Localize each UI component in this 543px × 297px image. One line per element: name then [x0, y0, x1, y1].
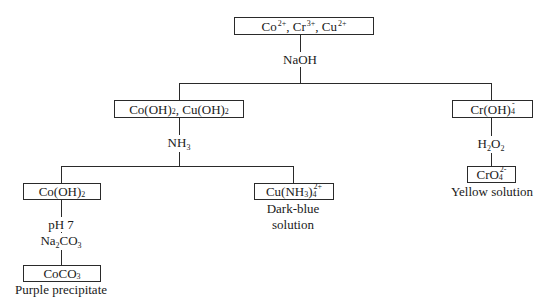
connector-to-copper-ammine [293, 166, 294, 183]
h: H [478, 136, 487, 151]
node-chromite: Cr(OH)4- [452, 100, 533, 118]
node-cobalt-carbonate: CoCO3 [23, 265, 101, 282]
subscript: 2 [81, 191, 85, 199]
ion-cu: , Cu2+ [315, 20, 346, 33]
formula-cu-nh: Cu(NH [266, 185, 304, 198]
na: Na [40, 233, 55, 248]
o: O [491, 136, 500, 151]
charge: - [512, 100, 515, 108]
reagent-naoh: NaOH [281, 52, 319, 67]
node-root-ions: Co2+ , Cr3+ , Cu2+ [234, 17, 374, 35]
connector-nh3-split [61, 166, 294, 167]
formula-cr-oh: Cr(OH) [470, 103, 510, 116]
charge: 2- [500, 166, 507, 174]
formula-co-oh: Co(OH) [129, 103, 172, 116]
co: CO [60, 233, 78, 248]
node-copper-ammine: Cu(NH3)42+ [254, 183, 334, 200]
reagent-na2co3: Na2CO3 [38, 233, 83, 250]
connector-to-cobalt-hydroxide [61, 166, 62, 183]
reagent-ph7: pH 7 [46, 217, 76, 232]
subscript: 2 [225, 108, 229, 116]
subscript: 2 [500, 144, 504, 153]
subscript: 3 [304, 191, 308, 199]
subscript: 2 [487, 144, 491, 153]
caption-purple-precipitate: Purple precipitate [15, 282, 107, 297]
reagent-nh3: NH3 [166, 135, 193, 152]
subscript: 3 [78, 241, 82, 250]
subscript: 2 [172, 108, 176, 116]
formula-coco: CoCO [43, 267, 76, 280]
subscript: 2 [56, 241, 60, 250]
subscript: 4 [313, 191, 317, 199]
connector-cobalt-to-carbonate [61, 199, 62, 265]
formula-co-oh: Co(OH) [39, 185, 82, 198]
connector-to-chromite [491, 83, 492, 100]
caption-dark-blue: Dark-blue [267, 201, 320, 216]
subscript: 4 [499, 174, 503, 182]
node-hydroxides: Co(OH)2, Cu(OH)2 [114, 100, 244, 118]
formula-cro: CrO [476, 168, 498, 181]
subscript: 4 [511, 108, 515, 116]
node-cobalt-hydroxide: Co(OH)2 [23, 183, 101, 200]
caption-yellow-solution: Yellow solution [451, 184, 533, 199]
formula-cu-oh: , Cu(OH) [176, 103, 225, 116]
connector-naoh-split [179, 83, 492, 84]
subscript: 3 [186, 143, 190, 152]
caption-solution: solution [272, 217, 314, 232]
charge: 2+ [314, 183, 323, 191]
ion-co: Co2+ [262, 20, 287, 33]
nh3-base: NH [168, 135, 187, 150]
reagent-h2o2: H2O2 [476, 136, 507, 153]
connector-to-hydroxides [179, 83, 180, 100]
ion-cr: , Cr3+ [286, 20, 315, 33]
node-chromate: CrO42- [467, 166, 516, 183]
subscript: 3 [77, 273, 81, 281]
